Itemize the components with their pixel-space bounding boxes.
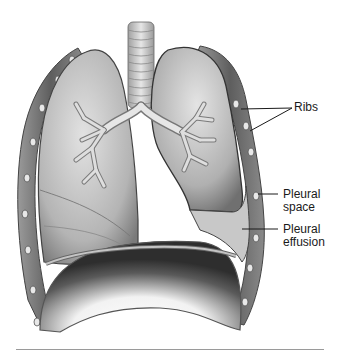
trachea <box>128 22 154 108</box>
label-ribs: Ribs <box>294 101 318 114</box>
label-pleural-space: Pleural space <box>283 188 320 214</box>
label-pleural-effusion: Pleural effusion <box>283 223 325 249</box>
lung-illustration <box>0 0 341 353</box>
bottom-divider <box>16 349 324 350</box>
diagram-canvas: Ribs Pleural space Pleural effusion <box>0 0 341 353</box>
